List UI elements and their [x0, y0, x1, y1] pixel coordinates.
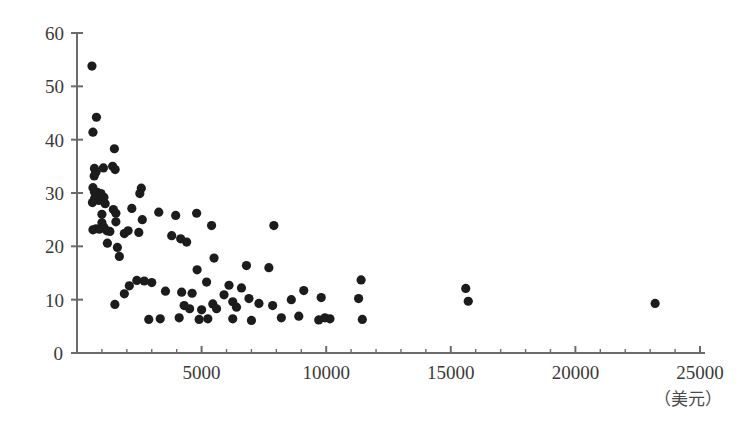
- data-point: [144, 315, 153, 324]
- scatter-plot-figure: 5000100001500020000250000102030405060（美元…: [0, 0, 738, 431]
- y-tick-label: 10: [45, 290, 64, 311]
- data-point: [195, 315, 204, 324]
- x-tick-label: 20000: [552, 362, 600, 383]
- data-point: [88, 198, 97, 207]
- data-point: [120, 289, 129, 298]
- data-point: [197, 305, 206, 314]
- data-point: [156, 314, 165, 323]
- data-point: [135, 189, 144, 198]
- data-point: [127, 204, 136, 213]
- data-point: [103, 239, 112, 248]
- data-point: [110, 300, 119, 309]
- data-point: [325, 314, 334, 323]
- data-point: [354, 294, 363, 303]
- data-point: [464, 297, 473, 306]
- data-point: [167, 231, 176, 240]
- data-point: [264, 263, 273, 272]
- data-point: [202, 277, 211, 286]
- data-point: [277, 313, 286, 322]
- data-point: [203, 314, 212, 323]
- data-point: [228, 314, 237, 323]
- data-point: [97, 210, 106, 219]
- data-point: [111, 209, 120, 218]
- data-point: [182, 237, 191, 246]
- y-tick-label: 30: [45, 183, 64, 204]
- data-point: [110, 144, 119, 153]
- data-point: [287, 295, 296, 304]
- data-point: [154, 208, 163, 217]
- data-point: [111, 217, 120, 226]
- data-point: [177, 288, 186, 297]
- data-point: [185, 304, 194, 313]
- data-point: [92, 113, 101, 122]
- data-point: [209, 253, 218, 262]
- data-point: [254, 299, 263, 308]
- data-point: [171, 211, 180, 220]
- data-point: [175, 313, 184, 322]
- data-point: [269, 221, 278, 230]
- data-point: [134, 228, 143, 237]
- data-point: [207, 221, 216, 230]
- data-point: [461, 284, 470, 293]
- x-tick-label: 25000: [676, 362, 724, 383]
- data-point: [99, 163, 108, 172]
- data-points-group: [87, 61, 659, 325]
- y-tick-label: 60: [45, 23, 64, 44]
- x-tick-label: 15000: [427, 362, 475, 383]
- data-point: [358, 315, 367, 324]
- data-point: [125, 281, 134, 290]
- data-point: [101, 199, 110, 208]
- data-point: [224, 281, 233, 290]
- data-point: [247, 316, 256, 325]
- data-point: [88, 128, 97, 137]
- data-point: [237, 283, 246, 292]
- y-tick-label: 40: [45, 130, 64, 151]
- x-tick-label: 10000: [302, 362, 350, 383]
- data-point: [356, 275, 365, 284]
- data-point: [138, 215, 147, 224]
- data-point: [105, 227, 114, 236]
- x-tick-label: 5000: [183, 362, 221, 383]
- axes-group: [71, 33, 704, 353]
- axis-labels-group: 5000100001500020000250000102030405060（美元…: [45, 23, 724, 409]
- data-point: [651, 299, 660, 308]
- plot-canvas: 5000100001500020000250000102030405060（美元…: [0, 0, 738, 431]
- y-tick-label: 20: [45, 236, 64, 257]
- data-point: [90, 171, 99, 180]
- data-point: [268, 301, 277, 310]
- data-point: [232, 303, 241, 312]
- data-point: [192, 209, 201, 218]
- data-point: [161, 287, 170, 296]
- y-tick-label: 50: [45, 76, 64, 97]
- data-point: [87, 61, 96, 70]
- data-point: [299, 286, 308, 295]
- data-point: [113, 243, 122, 252]
- data-point: [212, 304, 221, 313]
- data-point: [147, 278, 156, 287]
- data-point: [294, 312, 303, 321]
- data-point: [244, 294, 253, 303]
- data-point: [115, 252, 124, 261]
- data-point: [188, 289, 197, 298]
- data-point: [123, 226, 132, 235]
- data-point: [111, 165, 120, 174]
- data-point: [193, 265, 202, 274]
- data-point: [242, 261, 251, 270]
- data-point: [219, 290, 228, 299]
- x-tick-label-zero: 0: [54, 343, 64, 364]
- x-axis-unit-label: （美元）: [654, 389, 722, 409]
- data-point: [317, 293, 326, 302]
